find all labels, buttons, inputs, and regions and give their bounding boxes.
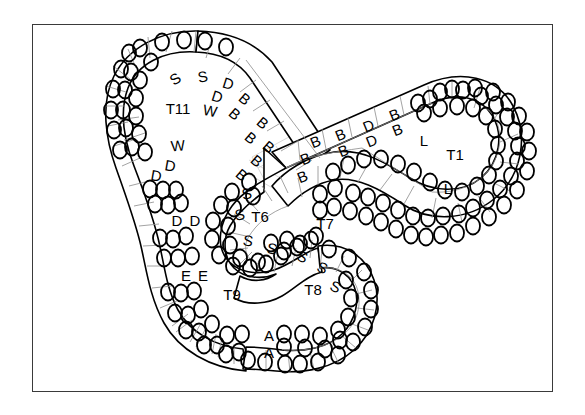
- region-label-t8: T8: [304, 281, 322, 298]
- cell-letter-d-15: D: [172, 212, 183, 229]
- cell-letter-d-23: D: [363, 131, 380, 151]
- cell-letter-d-16: D: [190, 212, 201, 229]
- cell-letter-a-38: A: [264, 344, 274, 361]
- cell-letter-w-12: W: [170, 136, 186, 154]
- ribbon-diagram: SSDDBBBBBBBWWDDDDEEBBBDDBBBBLLSSSSSSSAA …: [0, 0, 585, 415]
- cell-letter-b-7: B: [242, 128, 261, 147]
- region-label-t7: T7: [316, 215, 334, 232]
- cell-letter-l-29: L: [444, 180, 452, 197]
- cell-letter-s-1: S: [196, 67, 209, 85]
- cell-letter-b-5: B: [226, 104, 245, 123]
- cell-letter-s-33: S: [266, 239, 279, 257]
- region-label-t1: T1: [446, 146, 464, 163]
- cell-letter-a-37: A: [264, 327, 274, 344]
- figure-canvas: SSDDBBBBBBBWWDDDDEEBBBDDBBBBLLSSSSSSSAA …: [0, 0, 585, 415]
- region-label-t11: T11: [166, 100, 191, 117]
- cell-letter-d-13: D: [163, 156, 177, 175]
- cell-letter-w-11: W: [202, 101, 220, 120]
- cell-letter-b-25: B: [390, 120, 406, 140]
- cell-letter-s-32: S: [242, 231, 255, 249]
- region-label-t6: T6: [251, 208, 269, 225]
- cell-letter-e-17: E: [181, 267, 191, 284]
- cell-letter-b-10: B: [233, 165, 252, 184]
- cell-letter-s-0: S: [166, 69, 184, 89]
- cell-letter-e-18: E: [198, 267, 208, 284]
- cell-letter-l-28: L: [420, 132, 428, 149]
- region-label-t9: T9: [223, 286, 241, 303]
